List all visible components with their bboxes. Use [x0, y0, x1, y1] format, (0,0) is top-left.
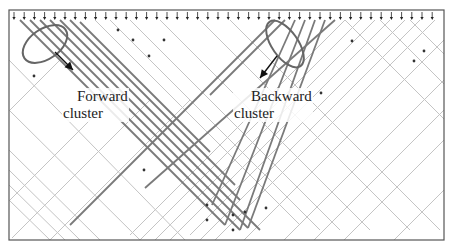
arrowhead-icon: [359, 17, 362, 20]
arrowhead-icon: [43, 17, 46, 20]
arrowhead-icon: [431, 17, 434, 20]
event-dot: [163, 39, 166, 42]
backward-cluster-label: Backward cluster: [233, 88, 313, 122]
event-dot: [148, 55, 151, 58]
arrowhead-icon: [257, 17, 260, 20]
arrowhead-icon: [84, 17, 87, 20]
arrowhead-icon: [74, 17, 77, 20]
event-dot: [265, 207, 268, 210]
event-dot: [232, 214, 235, 217]
backward-cluster-arrowhead-icon: [260, 69, 268, 78]
arrowhead-icon: [227, 17, 230, 20]
forward-label-line2: cluster: [63, 105, 128, 122]
trajectory-line: [140, 20, 360, 240]
trajectory-line: [380, 20, 444, 84]
trajectory-line: [344, 140, 444, 240]
arrowhead-icon: [410, 17, 413, 20]
backward-label-line2: cluster: [234, 105, 312, 122]
trajectory-line: [230, 20, 440, 230]
arrowhead-icon: [145, 17, 148, 20]
event-dot: [206, 219, 209, 222]
arrowhead-icon: [329, 17, 332, 20]
trajectory-line: [95, 20, 300, 225]
forward-label-line1: Forward: [63, 88, 128, 105]
event-dot: [423, 50, 426, 53]
arrowhead-icon: [104, 17, 107, 20]
arrowhead-icon: [23, 17, 26, 20]
arrowhead-icon: [206, 17, 209, 20]
arrowhead-icon: [308, 17, 311, 20]
forward-trajectory-line: [20, 20, 225, 225]
backward-label-line1: Backward: [234, 88, 312, 105]
arrowhead-icon: [369, 17, 372, 20]
arrowhead-icon: [380, 17, 383, 20]
forward-trajectory-line: [80, 22, 210, 152]
arrowhead-icon: [33, 17, 36, 20]
event-dot: [132, 39, 135, 42]
event-dot: [232, 229, 235, 232]
arrowhead-icon: [318, 17, 321, 20]
event-dot: [206, 204, 209, 207]
arrowhead-icon: [339, 17, 342, 20]
arrowhead-icon: [288, 17, 291, 20]
backward-trajectory-line: [225, 20, 305, 225]
arrowhead-icon: [247, 17, 250, 20]
arrowhead-icon: [237, 17, 240, 20]
arrowhead-icon: [114, 17, 117, 20]
arrowhead-icon: [298, 17, 301, 20]
event-dot: [413, 60, 416, 63]
arrowhead-icon: [53, 17, 56, 20]
arrowhead-icon: [390, 17, 393, 20]
trajectory-line: [394, 190, 444, 240]
backward-trajectory-line: [210, 20, 285, 95]
arrowhead-icon: [135, 17, 138, 20]
forward-cluster-label: Forward cluster: [62, 88, 129, 122]
event-dot: [244, 211, 247, 214]
arrowhead-icon: [12, 17, 15, 20]
arrowhead-icon: [94, 17, 97, 20]
arrowhead-icon: [216, 17, 219, 20]
event-dot: [320, 92, 323, 95]
arrowhead-icon: [165, 17, 168, 20]
arrowhead-icon: [420, 17, 423, 20]
top-arrows: [12, 12, 433, 20]
event-dot: [351, 40, 354, 43]
arrowhead-icon: [349, 17, 352, 20]
event-dot: [33, 75, 36, 78]
arrowhead-icon: [278, 17, 281, 20]
event-dot: [143, 169, 146, 172]
arrowhead-icon: [267, 17, 270, 20]
forward-trajectory-line: [30, 20, 240, 230]
arrowhead-icon: [63, 17, 66, 20]
event-dot: [117, 29, 120, 32]
cluster-diagram: [0, 0, 455, 249]
dark-lines-layer: [20, 20, 335, 230]
arrowhead-icon: [176, 17, 179, 20]
forward-trajectory-line: [50, 20, 260, 230]
arrowhead-icon: [125, 17, 128, 20]
trajectory-line: [160, 20, 370, 230]
arrowhead-icon: [400, 17, 403, 20]
arrowhead-icon: [196, 17, 199, 20]
arrowhead-icon: [155, 17, 158, 20]
trajectory-line: [200, 20, 410, 230]
trajectory-line: [314, 110, 444, 240]
arrowhead-icon: [186, 17, 189, 20]
